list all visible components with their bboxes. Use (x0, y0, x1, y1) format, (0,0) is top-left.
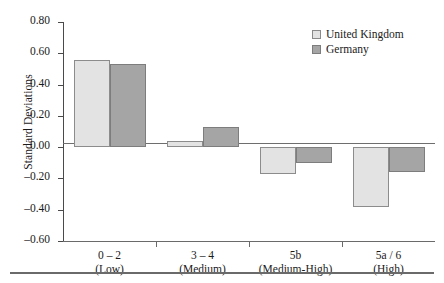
category-name: 5a / 6 (376, 249, 402, 261)
x-axis-tick (156, 241, 157, 247)
bar-de-2 (296, 147, 332, 163)
chart-figure: Standard Deviations 0.800.600.400.200.00… (0, 0, 444, 283)
bar-de-0 (110, 64, 146, 147)
legend-item-label: United Kingdom (326, 27, 404, 42)
y-axis-tick-label: 0.80 (10, 14, 50, 26)
x-axis-tick (249, 241, 250, 247)
chart-legend: United KingdomGermany (312, 27, 404, 57)
y-axis-tick-label: –0.60 (10, 233, 50, 245)
bar-uk-0 (74, 60, 110, 148)
bar-uk-1 (167, 141, 203, 147)
y-axis-tick-label: 0.00 (10, 139, 50, 151)
legend-item-uk: United Kingdom (312, 27, 404, 42)
y-axis-tick-label: 0.40 (10, 77, 50, 89)
legend-item-label: Germany (326, 42, 369, 57)
x-axis-tick (342, 241, 343, 247)
bar-uk-3 (353, 147, 389, 206)
category-name: 5b (290, 249, 302, 261)
bar-de-3 (389, 147, 425, 172)
bar-uk-2 (260, 147, 296, 174)
category-name: 3 – 4 (191, 249, 214, 261)
y-axis-tick-label: –0.20 (10, 170, 50, 182)
legend-swatch-icon (312, 30, 321, 39)
legend-swatch-icon (312, 45, 321, 54)
y-axis-tick-label: 0.20 (10, 108, 50, 120)
bottom-divider-rule (10, 272, 434, 274)
category-name: 0 – 2 (98, 249, 121, 261)
bar-de-1 (203, 127, 239, 147)
y-axis-tick-label: –0.40 (10, 202, 50, 214)
legend-item-de: Germany (312, 42, 404, 57)
y-axis-tick-label: 0.60 (10, 45, 50, 57)
